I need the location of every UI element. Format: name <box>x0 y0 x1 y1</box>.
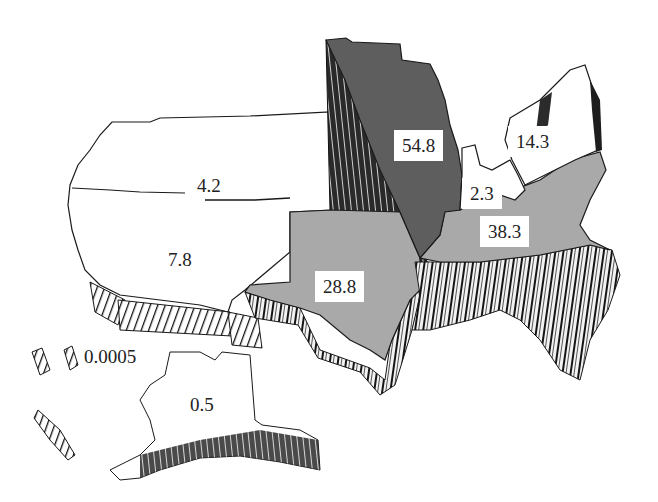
region-pacific-islands <box>32 346 78 375</box>
value-label-northeast: 14.3 <box>508 126 557 157</box>
prism-map <box>0 0 658 502</box>
value-label-southeast: 38.3 <box>480 216 529 247</box>
value-label-west: 7.8 <box>168 250 192 269</box>
value-label-alaska: 0.5 <box>190 395 214 414</box>
value-label-north-plains: 4.2 <box>197 176 221 195</box>
region-southeast-walls <box>412 245 620 380</box>
value-label-pacific-islands: 0.0005 <box>84 347 136 366</box>
value-label-south-central: 28.8 <box>315 271 364 302</box>
value-label-midwest: 54.8 <box>394 130 443 161</box>
region-alaska <box>34 352 320 480</box>
value-label-mid-atlantic: 2.3 <box>462 178 502 209</box>
